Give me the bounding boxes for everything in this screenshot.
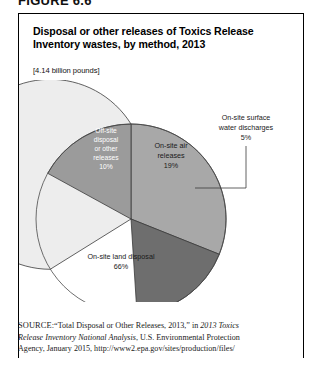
source-prefix: SOURCE: [18,321,54,330]
source-line-2: Release Inventory National Analysis, U.S… [18,332,306,344]
source-line2-text: , U.S. Environmental Protection [136,333,240,342]
source-line1-italic: 2013 Toxics [200,321,239,330]
figure-page: FIGURE 6.6 Disposal or other releases of… [0,0,310,369]
slice-label-offsite-line4: releases [93,154,119,161]
callout-label-water-line1: On-site surface [222,113,271,122]
source-line2-italic: Release Inventory National Analysis [18,333,136,342]
figure-title: Disposal or other releases of Toxics Rel… [33,25,291,51]
slice-label-offsite-line3: or other [94,145,118,152]
figure-units-subtitle: [4.14 billion pounds] [33,66,100,75]
slice-label-land-line1: On-site land disposal [87,252,155,261]
slice-label-land-percent: 66% [114,262,129,271]
source-note: SOURCE:“Total Disposal or Other Releases… [18,320,306,355]
slice-label-air-line1: On-site air [154,141,188,150]
callout-label-water-line2: water discharges [218,123,274,132]
pie-chart-svg: On-site air releases 19% Off-site dispos… [19,80,303,302]
figure-number-label: FIGURE 6.6 [18,0,92,7]
slice-label-air-percent: 19% [164,161,179,170]
slice-label-offsite-line2: disposal [94,136,119,144]
slice-label-offsite-line1: Off-site [95,127,117,134]
source-line1-text: “Total Disposal or Other Releases, 2013,… [54,321,200,330]
slice-label-offsite-percent: 10% [99,163,112,170]
source-line-1: SOURCE:“Total Disposal or Other Releases… [18,320,306,332]
pie-chart: On-site air releases 19% Off-site dispos… [19,80,303,302]
figure-box: Disposal or other releases of Toxics Rel… [18,13,304,358]
source-line-3: Agency, January 2015, http://www2.epa.go… [18,343,306,355]
slice-label-air-line2: releases [157,151,185,160]
callout-label-water-percent: 5% [241,133,252,142]
